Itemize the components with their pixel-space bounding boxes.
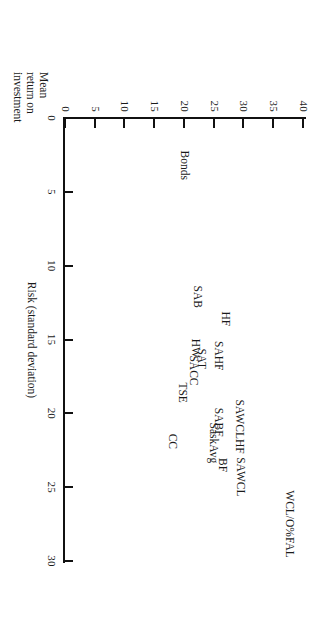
y-axis-tick (94, 119, 96, 128)
y-axis-tick (153, 119, 155, 128)
y-axis-title: Mean return on investment (11, 72, 50, 192)
data-point-label: SAWCL (235, 457, 247, 496)
plot-area: 051015202530 0510152025303540 WCL/O%FALS… (0, 0, 336, 622)
y-axis-title-line-3: investment (11, 72, 24, 192)
y-axis-title-line-1: Mean (37, 72, 50, 192)
x-axis-tick-label: 10 (46, 260, 57, 271)
y-axis-tick-label: 15 (149, 101, 160, 112)
x-axis-title: Risk (standard deviation) (25, 282, 38, 398)
y-axis-tick (272, 119, 274, 128)
y-axis-tick-label: 20 (179, 101, 190, 112)
y-axis-tick (183, 119, 185, 128)
y-axis-tick-label: 40 (298, 101, 309, 112)
x-axis-tick-label: 15 (46, 334, 57, 345)
x-axis-tick (64, 191, 73, 193)
x-axis-tick-label: 30 (46, 555, 57, 566)
data-point-label: HF (220, 311, 232, 326)
data-point-label: HW (191, 339, 203, 358)
data-point-label: SAHF (213, 341, 225, 370)
y-axis-tick (213, 119, 215, 128)
y-axis-title-line-2: return on (24, 72, 37, 192)
x-axis-tick (64, 560, 73, 562)
x-axis-tick (64, 265, 73, 267)
y-axis-tick-label: 25 (208, 101, 219, 112)
y-axis-tick (64, 119, 66, 128)
data-point-label: WCL/O%FAL (284, 490, 296, 558)
x-axis-tick (64, 486, 73, 488)
y-axis-tick (302, 119, 304, 128)
data-point-label: Bonds (179, 151, 191, 180)
chart-figure: 051015202530 0510152025303540 WCL/O%FALS… (0, 0, 336, 622)
y-axis-tick (243, 119, 245, 128)
y-axis-tick-label: 35 (268, 101, 279, 112)
y-axis-tick-label: 30 (238, 101, 249, 112)
y-axis-tick-label: 5 (89, 106, 100, 112)
x-axis-tick-label: 25 (46, 481, 57, 492)
y-axis-tick (124, 119, 126, 128)
y-axis-tick-label: 0 (60, 106, 71, 112)
data-point-label: SAWCLHF (234, 400, 246, 454)
data-point-label: CC (167, 434, 179, 449)
data-point-label: SAB (192, 285, 204, 307)
x-axis-tick-label: 20 (46, 408, 57, 419)
x-axis-tick (64, 412, 73, 414)
y-axis-tick-label: 10 (119, 101, 130, 112)
data-point-label: SABF (213, 408, 225, 437)
x-axis-tick (64, 339, 73, 341)
